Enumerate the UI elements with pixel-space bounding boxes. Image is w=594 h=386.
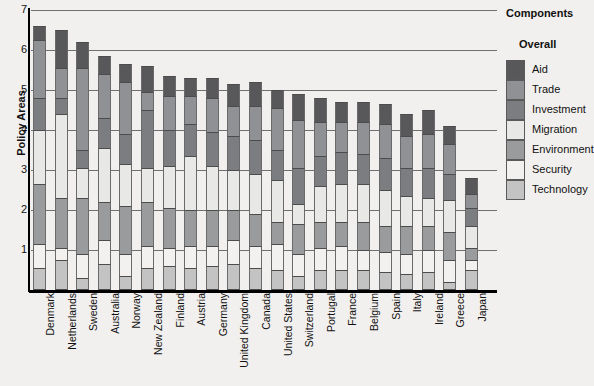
- bar-segment: [271, 270, 284, 290]
- bar-segment: [119, 64, 132, 82]
- bar-segment: [400, 196, 413, 226]
- bar-segment: [141, 110, 154, 168]
- plot-area: [31, 10, 497, 290]
- bar-segment: [141, 168, 154, 202]
- y-axis-tick-label: 1: [5, 243, 27, 255]
- bar-segment: [184, 156, 197, 210]
- bar-segment: [465, 260, 478, 270]
- bar: [357, 102, 370, 290]
- bar-segment: [465, 194, 478, 208]
- bar: [400, 114, 413, 290]
- y-axis-line: [28, 8, 30, 292]
- bar-segment: [76, 168, 89, 198]
- bar-segment: [292, 276, 305, 290]
- x-axis-category-label: Australia: [109, 293, 121, 383]
- bar-segment: [314, 156, 327, 186]
- x-axis-category-label: Austria: [195, 293, 207, 383]
- x-axis-category-label: United States: [282, 293, 294, 383]
- bar-segment: [271, 222, 284, 244]
- bar-segment: [98, 148, 111, 202]
- bar-segment: [422, 110, 435, 134]
- bar-segment: [119, 206, 132, 254]
- bar-segment: [76, 198, 89, 254]
- bar-segment: [271, 108, 284, 150]
- bar-segment: [271, 90, 284, 108]
- bar-segment: [249, 82, 262, 106]
- bar-segment: [422, 250, 435, 272]
- legend-label: Security: [532, 163, 572, 175]
- bar-segment: [443, 232, 456, 260]
- bar-segment: [55, 98, 68, 114]
- gridline: [31, 50, 497, 51]
- bar-segment: [249, 140, 262, 174]
- bar-segment: [400, 168, 413, 196]
- bar-segment: [271, 244, 284, 270]
- bar-segment: [206, 266, 219, 290]
- bar-segment: [271, 150, 284, 180]
- x-axis-category-label: Canada: [260, 293, 272, 383]
- bar-segment: [76, 150, 89, 168]
- bar-segment: [141, 202, 154, 246]
- bar-segment: [55, 248, 68, 260]
- bar-segment: [292, 224, 305, 254]
- bar-segment: [206, 246, 219, 266]
- bar-segment: [292, 94, 305, 120]
- bar-segment: [249, 214, 262, 246]
- bar: [141, 66, 154, 290]
- bar-segment: [357, 222, 370, 250]
- x-axis-category-label: Greece: [454, 293, 466, 383]
- bar-segment: [314, 98, 327, 122]
- bar: [465, 178, 478, 290]
- x-axis-category-label: Netherlands: [66, 293, 78, 383]
- bar-segment: [400, 274, 413, 290]
- legend-swatch: [506, 120, 525, 140]
- x-axis-category-label: Japan: [476, 293, 488, 383]
- bar-segment: [314, 186, 327, 222]
- bar-segment: [379, 190, 392, 226]
- bar-segment: [335, 270, 348, 290]
- bar-segment: [76, 254, 89, 278]
- bar-segment: [379, 104, 392, 124]
- y-axis-tick-labels: 1234567: [0, 0, 27, 300]
- bar-segment: [292, 254, 305, 276]
- x-axis-category-label: Belgium: [368, 293, 380, 383]
- bar-segment: [184, 96, 197, 124]
- bar-segment: [357, 102, 370, 122]
- bar-segment: [443, 126, 456, 144]
- bar-segment: [335, 152, 348, 184]
- x-axis-category-label: France: [346, 293, 358, 383]
- bar-segment: [443, 260, 456, 282]
- bar-segment: [422, 272, 435, 290]
- bar-segment: [249, 268, 262, 290]
- bar-segment: [33, 26, 46, 40]
- y-axis-tick-label: 3: [5, 163, 27, 175]
- bar-segment: [422, 198, 435, 226]
- y-axis-tick-label: 2: [5, 203, 27, 215]
- bar-segment: [249, 174, 262, 214]
- x-axis-category-label: United Kingdom: [238, 293, 250, 383]
- bar-segment: [55, 30, 68, 68]
- legend-title: Components: [506, 7, 573, 19]
- bar-segment: [465, 178, 478, 194]
- legend-swatch: [506, 80, 525, 100]
- bar-segment: [55, 68, 68, 98]
- bar-segment: [98, 264, 111, 290]
- bar: [163, 76, 176, 290]
- bar-segment: [76, 278, 89, 290]
- x-axis-category-label: Portugal: [325, 293, 337, 383]
- legend-label: Trade: [532, 83, 560, 95]
- bar-segment: [55, 198, 68, 248]
- bar: [98, 56, 111, 290]
- bar-segment: [98, 202, 111, 240]
- bar-segment: [400, 226, 413, 254]
- bar-segment: [98, 118, 111, 148]
- bar-segment: [33, 98, 46, 130]
- bar-segment: [206, 132, 219, 166]
- bar-segment: [335, 122, 348, 152]
- bar: [422, 110, 435, 290]
- y-axis-tick-label: 4: [5, 123, 27, 135]
- bar: [249, 82, 262, 290]
- bar-segment: [33, 268, 46, 290]
- bar-segment: [141, 66, 154, 92]
- bar-segment: [33, 40, 46, 98]
